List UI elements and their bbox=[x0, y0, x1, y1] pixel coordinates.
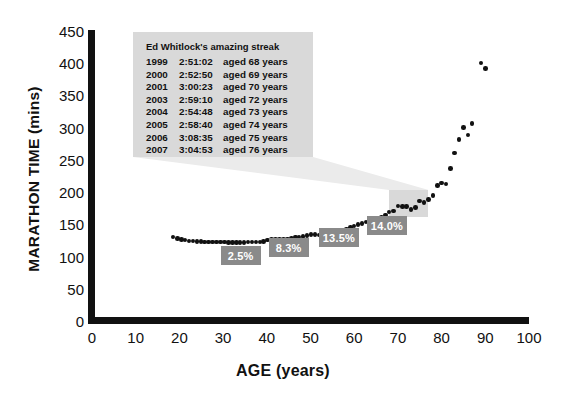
callout-time: 2:52:50 bbox=[179, 69, 223, 80]
y-tick-label: 150 bbox=[40, 217, 84, 232]
x-tick-label: 10 bbox=[116, 330, 156, 345]
data-point bbox=[444, 182, 449, 187]
y-tick-label: 200 bbox=[40, 185, 84, 200]
callout-row: 19992:51:02aged 68 years bbox=[146, 56, 288, 69]
y-tick-label: 300 bbox=[40, 121, 84, 136]
callout-time: 2:59:10 bbox=[179, 94, 223, 105]
callout-age: aged 76 years bbox=[223, 144, 288, 155]
callout-row: 20013:00:23aged 70 years bbox=[146, 81, 288, 94]
x-tick-label: 20 bbox=[159, 330, 199, 345]
data-point bbox=[479, 61, 484, 66]
y-tick-label: 50 bbox=[40, 282, 84, 297]
data-point bbox=[461, 125, 466, 130]
callout-age: aged 73 years bbox=[223, 106, 288, 117]
callout-title: Ed Whitlock's amazing streak bbox=[146, 41, 279, 52]
callout-year: 2006 bbox=[146, 132, 179, 143]
callout-year: 2003 bbox=[146, 94, 179, 105]
x-axis-title: AGE (years) bbox=[0, 362, 566, 380]
callout-age: aged 75 years bbox=[223, 132, 288, 143]
x-tick-label: 80 bbox=[422, 330, 462, 345]
data-point bbox=[452, 151, 457, 156]
decline-badge: 8.3% bbox=[269, 238, 309, 257]
x-tick-label: 30 bbox=[203, 330, 243, 345]
y-tick-label: 100 bbox=[40, 250, 84, 265]
y-tick-label: 250 bbox=[40, 153, 84, 168]
y-tick-label: 450 bbox=[40, 24, 84, 39]
data-point bbox=[391, 209, 396, 214]
x-tick-label: 90 bbox=[465, 330, 505, 345]
callout-time: 2:54:48 bbox=[179, 106, 223, 117]
callout-row: 20002:52:50aged 69 years bbox=[146, 69, 288, 82]
chart-canvas: 050100150200250300350400450 MARATHON TIM… bbox=[0, 0, 566, 397]
data-point bbox=[431, 193, 436, 198]
x-tick-label: 60 bbox=[334, 330, 374, 345]
y-axis-title: MARATHON TIME (mins) bbox=[25, 49, 43, 309]
callout-row: 20032:59:10aged 72 years bbox=[146, 94, 288, 107]
callout-time: 2:58:40 bbox=[179, 119, 223, 130]
callout-year: 2005 bbox=[146, 119, 179, 130]
callout-time: 3:04:53 bbox=[179, 144, 223, 155]
callout-year: 2004 bbox=[146, 106, 179, 117]
callout-time: 3:08:35 bbox=[179, 132, 223, 143]
data-point bbox=[413, 205, 418, 210]
callout-time: 2:51:02 bbox=[179, 56, 223, 67]
callout-age: aged 69 years bbox=[223, 69, 288, 80]
callout-row: 20073:04:53aged 76 years bbox=[146, 144, 288, 157]
decline-badge: 14.0% bbox=[367, 216, 407, 235]
callout-age: aged 72 years bbox=[223, 94, 288, 105]
callout-row: 20052:58:40aged 74 years bbox=[146, 119, 288, 132]
x-tick-label: 40 bbox=[247, 330, 287, 345]
data-point bbox=[448, 166, 453, 171]
data-point bbox=[457, 137, 462, 142]
data-point bbox=[466, 133, 471, 138]
x-tick-label: 70 bbox=[378, 330, 418, 345]
callout-box: Ed Whitlock's amazing streak 19992:51:02… bbox=[133, 32, 313, 157]
callout-year: 2007 bbox=[146, 144, 179, 155]
callout-age: aged 70 years bbox=[223, 81, 288, 92]
x-tick-label: 100 bbox=[509, 330, 549, 345]
decline-badge: 2.5% bbox=[221, 246, 261, 265]
callout-age: aged 74 years bbox=[223, 119, 288, 130]
callout-row: 20042:54:48aged 73 years bbox=[146, 106, 288, 119]
callout-year: 2001 bbox=[146, 81, 179, 92]
callout-time: 3:00:23 bbox=[179, 81, 223, 92]
callout-row: 20063:08:35aged 75 years bbox=[146, 132, 288, 145]
x-tick-label: 0 bbox=[72, 330, 112, 345]
data-point bbox=[470, 121, 475, 126]
y-tick-label: 400 bbox=[40, 56, 84, 71]
x-axis-tick-labels: 0102030405060708090100 bbox=[0, 330, 566, 352]
data-point bbox=[483, 66, 488, 71]
callout-rows: 19992:51:02aged 68 years20002:52:50aged … bbox=[146, 56, 288, 157]
callout-year: 1999 bbox=[146, 56, 179, 67]
y-tick-label: 350 bbox=[40, 88, 84, 103]
x-tick-label: 50 bbox=[291, 330, 331, 345]
y-tick-label: 0 bbox=[40, 314, 84, 329]
data-point bbox=[426, 197, 431, 202]
callout-year: 2000 bbox=[146, 69, 179, 80]
callout-age: aged 68 years bbox=[223, 56, 288, 67]
decline-badge: 13.5% bbox=[319, 228, 359, 247]
